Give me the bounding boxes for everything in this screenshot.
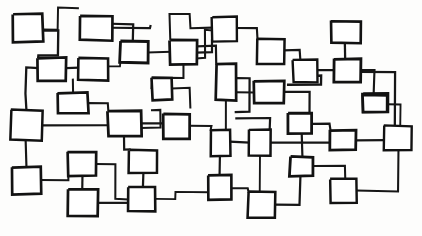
node-30[interactable] — [208, 175, 232, 200]
edge-19 — [88, 103, 109, 111]
node-24-outline — [330, 130, 357, 150]
edge-31 — [190, 126, 212, 130]
node-5-outline — [120, 41, 149, 63]
node-6[interactable] — [169, 39, 197, 64]
node-2[interactable] — [80, 16, 113, 41]
edge-27 — [96, 164, 127, 200]
edge-1 — [43, 8, 78, 30]
edge-32 — [230, 142, 249, 143]
node-21[interactable] — [363, 95, 388, 112]
edge-30 — [155, 192, 208, 199]
edge-37 — [284, 92, 309, 113]
edge-9 — [238, 28, 258, 39]
node-8[interactable] — [37, 57, 66, 81]
node-27-outline — [129, 150, 158, 174]
edge-47 — [357, 150, 399, 191]
node-4-outline — [331, 21, 361, 44]
node-17-outline — [10, 109, 42, 140]
diagram-canvas — [0, 0, 422, 236]
node-7[interactable] — [257, 38, 285, 64]
node-31-outline — [128, 187, 156, 212]
node-2-outline — [80, 16, 113, 41]
node-9-outline — [78, 58, 109, 81]
node-17[interactable] — [10, 109, 42, 140]
node-14[interactable] — [57, 92, 88, 113]
node-5[interactable] — [120, 41, 149, 63]
node-12[interactable] — [152, 77, 173, 100]
edge-8 — [148, 52, 171, 53]
edge-38 — [231, 188, 248, 192]
node-32[interactable] — [67, 189, 98, 216]
node-32-outline — [67, 189, 98, 216]
node-23-outline — [249, 129, 271, 155]
node-3-outline — [212, 17, 237, 42]
node-31[interactable] — [128, 187, 156, 212]
edge-3 — [112, 24, 133, 42]
node-10[interactable] — [293, 60, 318, 83]
block-diagram-svg — [0, 0, 422, 236]
edge-20 — [172, 88, 190, 108]
node-34[interactable] — [330, 178, 357, 203]
node-33[interactable] — [248, 191, 276, 218]
node-11[interactable] — [334, 59, 361, 83]
node-29-outline — [289, 156, 313, 176]
edge-52 — [197, 30, 213, 59]
node-26[interactable] — [67, 151, 96, 176]
node-20[interactable] — [288, 113, 312, 134]
node-30-outline — [208, 175, 232, 200]
node-28[interactable] — [12, 167, 41, 195]
node-13[interactable] — [216, 63, 237, 100]
node-15-outline — [254, 81, 285, 104]
node-33-outline — [248, 191, 276, 218]
node-19-outline — [163, 113, 190, 139]
node-29[interactable] — [289, 156, 313, 176]
node-10-outline — [293, 60, 318, 83]
node-19[interactable] — [163, 113, 190, 139]
node-24[interactable] — [330, 130, 357, 150]
edge-43 — [313, 166, 345, 180]
node-22-outline — [210, 130, 230, 157]
node-7-outline — [257, 38, 285, 64]
node-1-outline — [12, 14, 43, 43]
edge-36 — [236, 118, 270, 130]
node-23[interactable] — [249, 129, 271, 155]
edge-23 — [26, 140, 27, 168]
edge-48 — [275, 176, 300, 204]
node-20-outline — [288, 113, 312, 134]
node-28-outline — [12, 167, 41, 195]
node-9[interactable] — [78, 58, 109, 81]
node-21-outline — [363, 95, 388, 112]
node-18-outline — [107, 111, 141, 137]
node-25[interactable] — [383, 125, 411, 150]
node-4[interactable] — [331, 21, 361, 44]
edge-42 — [302, 134, 303, 156]
node-3[interactable] — [212, 17, 237, 42]
edge-25 — [41, 164, 68, 181]
node-27[interactable] — [129, 150, 158, 174]
node-25-outline — [383, 125, 411, 150]
edge-51 — [141, 110, 160, 128]
node-12-outline — [152, 77, 173, 100]
node-15[interactable] — [254, 81, 285, 104]
node-26-outline — [67, 151, 96, 176]
edge-49 — [236, 78, 250, 112]
node-14-outline — [57, 92, 88, 113]
edge-24 — [124, 136, 130, 150]
node-22[interactable] — [210, 130, 230, 157]
node-34-outline — [330, 178, 357, 203]
edge-4 — [112, 26, 150, 28]
node-8-outline — [37, 57, 66, 81]
node-1[interactable] — [12, 14, 43, 43]
node-11-outline — [334, 59, 361, 83]
edge-14 — [361, 70, 375, 92]
node-18[interactable] — [107, 111, 141, 137]
node-13-outline — [216, 63, 237, 100]
node-6-outline — [169, 39, 197, 64]
edge-7 — [197, 46, 216, 64]
edge-41 — [312, 124, 330, 130]
